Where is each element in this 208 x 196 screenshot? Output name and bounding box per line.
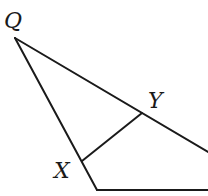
- segment-xy: [82, 113, 142, 161]
- label-y: Y: [148, 88, 165, 113]
- label-x: X: [52, 158, 71, 183]
- label-q: Q: [4, 8, 22, 33]
- triangle-diagram: Q Y X: [0, 0, 208, 196]
- segment-q-to-right: [15, 38, 208, 152]
